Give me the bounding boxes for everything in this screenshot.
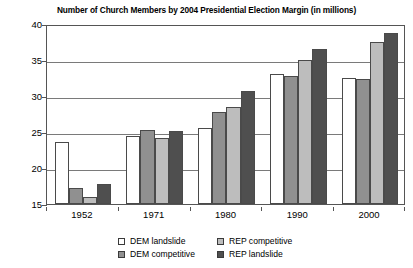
y-tick-label: 35 (18, 56, 42, 66)
bar[interactable] (384, 33, 398, 204)
y-tick-label: 25 (18, 128, 42, 138)
bar[interactable] (198, 128, 212, 204)
x-tick-mark (118, 207, 119, 211)
legend-label: REP landslide (229, 248, 283, 260)
x-tick-label: 1952 (71, 210, 92, 220)
chart-title: Number of Church Members by 2004 Preside… (0, 5, 413, 15)
y-axis: 152025303540 (14, 25, 42, 205)
bars-layer (47, 26, 404, 204)
legend-label: REP competitive (229, 235, 292, 247)
x-tick-label: 1971 (143, 210, 164, 220)
x-tick-label: 2000 (359, 210, 380, 220)
x-tick-mark (333, 207, 334, 211)
x-tick-mark (190, 207, 191, 211)
y-tick-label: 30 (18, 92, 42, 102)
bar[interactable] (83, 197, 97, 204)
legend-label: DEM landslide (130, 235, 185, 247)
chart-legend: DEM landslideREP competitiveDEM competit… (118, 235, 292, 260)
x-axis: 19521971198019902000 (46, 207, 405, 223)
bar[interactable] (212, 112, 226, 204)
legend-label: DEM competitive (130, 248, 195, 260)
x-tick-label: 1990 (287, 210, 308, 220)
bar-group (342, 26, 399, 204)
y-tick-mark (42, 205, 47, 206)
bar[interactable] (126, 136, 140, 204)
bar[interactable] (356, 79, 370, 204)
legend-swatch-icon (118, 251, 125, 258)
legend-swatch-icon (217, 251, 224, 258)
bar[interactable] (298, 60, 312, 204)
legend-item[interactable]: REP competitive (217, 235, 292, 247)
x-tick-mark (261, 207, 262, 211)
x-tick-label: 1980 (215, 210, 236, 220)
legend-item[interactable]: REP landslide (217, 248, 292, 260)
x-tick-mark (404, 207, 405, 211)
legend-swatch-icon (118, 238, 125, 245)
bar[interactable] (226, 107, 240, 204)
bar-group (55, 26, 112, 204)
bar[interactable] (55, 142, 69, 204)
bar[interactable] (270, 74, 284, 204)
bar-chart: Number of Church Members by 2004 Preside… (0, 0, 413, 268)
bar[interactable] (241, 91, 255, 204)
bar[interactable] (370, 42, 384, 204)
y-tick-label: 15 (18, 200, 42, 210)
bar-group (198, 26, 255, 204)
bar[interactable] (155, 138, 169, 204)
bar[interactable] (284, 76, 298, 204)
legend-item[interactable]: DEM competitive (118, 248, 195, 260)
plot-area (46, 25, 405, 205)
bar[interactable] (69, 188, 83, 204)
bar-group (126, 26, 183, 204)
y-tick-label: 20 (18, 164, 42, 174)
legend-item[interactable]: DEM landslide (118, 235, 195, 247)
bar[interactable] (342, 78, 356, 204)
legend-swatch-icon (217, 238, 224, 245)
bar[interactable] (312, 49, 326, 204)
x-tick-mark (46, 207, 47, 211)
bar[interactable] (97, 184, 111, 204)
bar[interactable] (140, 130, 154, 204)
bar-group (270, 26, 327, 204)
y-tick-label: 40 (18, 20, 42, 30)
bar[interactable] (169, 131, 183, 204)
